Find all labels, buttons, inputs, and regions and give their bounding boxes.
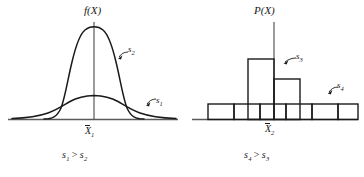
callout-arrow-s1	[147, 99, 156, 104]
left-caption-rhs-sub: 2	[84, 155, 88, 162]
discrete-distribution-panel: P(X) s3 s4 X2 s4>s3	[186, 0, 364, 177]
left-caption-relation: >	[70, 149, 80, 160]
bar-s4-4	[286, 104, 312, 120]
bar-s4-1	[208, 104, 234, 120]
callout-label-s4: s4	[337, 81, 344, 92]
callout-label-s1: s1	[156, 96, 163, 107]
left-panel-graphics	[0, 0, 186, 177]
bar-s4-2	[234, 104, 260, 120]
histogram-s4-wide	[208, 104, 358, 120]
right-y-axis-label: P(X)	[254, 5, 275, 16]
right-caption-rhs-sub: 3	[266, 155, 270, 162]
statistics-figure: f(X) s2 s1 X1 s1>s2	[0, 0, 364, 177]
bar-s4-5	[312, 104, 338, 120]
mean-x2-symbol: X	[265, 124, 271, 134]
bar-s3-medium	[274, 79, 300, 120]
left-caption: s1>s2	[62, 150, 87, 163]
continuous-distribution-panel: f(X) s2 s1 X1 s1>s2	[0, 0, 186, 177]
callout-s4-subscript: 4	[341, 85, 344, 92]
callout-s3-subscript: 3	[300, 56, 303, 63]
bar-s4-3	[260, 104, 286, 120]
mean-label-x2: X2	[265, 124, 274, 137]
callout-arrow-s2	[119, 52, 128, 57]
bar-s3-tall	[248, 59, 274, 120]
callout-s1-subscript: 1	[160, 100, 163, 107]
histogram-s3-tall	[248, 59, 300, 120]
callout-label-s2: s2	[128, 45, 135, 56]
callout-label-s3: s3	[296, 52, 303, 63]
mean-x1-subscript: 1	[91, 131, 94, 138]
right-caption: s4>s3	[244, 150, 269, 163]
left-y-axis-label: f(X)	[84, 5, 101, 16]
mean-x2-subscript: 2	[271, 129, 274, 136]
bar-s4-6	[338, 104, 358, 120]
right-caption-relation: >	[252, 149, 262, 160]
callout-s2-subscript: 2	[132, 49, 135, 56]
mean-x1-symbol: X	[85, 126, 91, 136]
mean-label-x1: X1	[85, 126, 94, 139]
